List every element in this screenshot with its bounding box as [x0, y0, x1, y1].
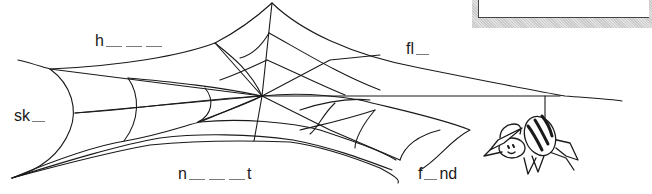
letter-blank[interactable]	[229, 179, 245, 180]
word-prompt-fl: fl	[406, 41, 431, 57]
word-prefix: sk	[14, 108, 30, 124]
letter-blank[interactable]	[126, 46, 142, 47]
word-prefix: f	[418, 166, 422, 182]
word-prefix: h	[95, 33, 104, 49]
word-suffix: nd	[439, 166, 457, 182]
letter-blank[interactable]	[189, 179, 205, 180]
letter-blank[interactable]	[146, 46, 162, 47]
word-prefix: n	[178, 166, 187, 182]
letter-blank[interactable]	[106, 46, 122, 47]
letter-blank[interactable]	[209, 179, 225, 180]
word-prompt-n: n t	[178, 166, 251, 182]
word-prompt-h: h	[95, 33, 164, 49]
word-prompt-sk: sk	[14, 108, 47, 124]
word-prefix: fl	[406, 41, 414, 57]
letter-blank[interactable]	[416, 54, 429, 55]
word-prompt-f: f nd	[418, 166, 457, 182]
spider-icon	[480, 108, 580, 178]
letter-blank[interactable]	[32, 121, 45, 122]
letter-blank[interactable]	[424, 179, 437, 180]
word-suffix: t	[247, 166, 251, 182]
